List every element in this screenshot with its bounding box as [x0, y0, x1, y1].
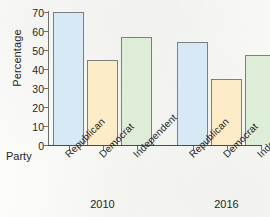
- y-tick-label: 60: [22, 27, 44, 38]
- x-group-label-2016: 2016: [197, 198, 257, 210]
- y-tick-label: 20: [22, 103, 44, 114]
- y-tick-label: 70: [22, 8, 44, 19]
- y-tick-label: 50: [22, 46, 44, 57]
- y-tick-label: 30: [22, 84, 44, 95]
- bar-2016-republican: [177, 42, 208, 145]
- bar-2010-republican: [53, 12, 84, 145]
- y-axis-tick-labels: 0 10 20 30 40 50 60 70: [20, 0, 44, 217]
- bar-chart-figure: Percentage 0 10 20 30 40 50 60 70: [0, 0, 270, 217]
- x-axis-title: Party: [6, 150, 32, 162]
- x-group-label-2010: 2010: [73, 198, 133, 210]
- plot-area: Percentage 0 10 20 30 40 50 60 70: [0, 0, 270, 217]
- y-tick-label: 40: [22, 65, 44, 76]
- y-tick-label: 10: [22, 122, 44, 133]
- y-axis-line: [48, 11, 49, 146]
